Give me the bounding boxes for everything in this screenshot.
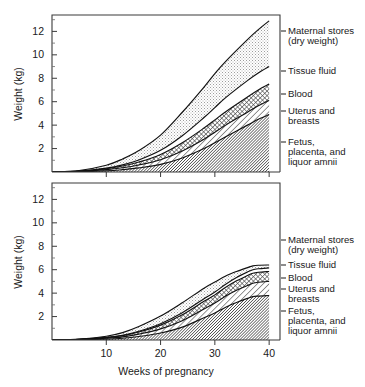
legend-label: breasts — [288, 293, 320, 304]
x-tick-label: 40 — [263, 347, 275, 359]
legend-label: liquor amnii — [288, 156, 337, 167]
x-tick-label: 30 — [209, 347, 221, 359]
x-axis-title: Weeks of pregnancy — [118, 365, 214, 377]
bottom-chart-y-axis-title: Weight (kg) — [12, 235, 24, 289]
y-tick-label: 10 — [32, 216, 44, 228]
legend-label: (dry weight) — [288, 35, 338, 46]
y-tick-label: 8 — [38, 240, 44, 252]
legend-label: Tissue fluid — [288, 259, 336, 270]
legend-label: Blood — [288, 272, 313, 283]
figure-container: 24681012 Weight (kg) Maternal stores(dry… — [0, 0, 365, 387]
y-tick-label: 10 — [32, 48, 44, 60]
legend-label: (dry weight) — [288, 244, 338, 255]
y-tick-label: 8 — [38, 72, 44, 84]
y-tick-label: 6 — [38, 263, 44, 275]
weight-gain-pregnancy-figure: 24681012 Weight (kg) Maternal stores(dry… — [0, 0, 365, 387]
legend-label: liquor amnii — [288, 325, 337, 336]
y-tick-label: 2 — [38, 142, 44, 154]
y-tick-label: 4 — [38, 119, 44, 131]
y-tick-label: 12 — [32, 25, 44, 37]
x-tick-label: 20 — [155, 347, 167, 359]
x-tick-label: 10 — [100, 347, 112, 359]
legend-label: Blood — [288, 88, 313, 99]
y-tick-label: 12 — [32, 193, 44, 205]
legend-label: breasts — [288, 115, 320, 126]
top-chart-y-axis-title: Weight (kg) — [12, 67, 24, 121]
y-tick-label: 2 — [38, 310, 44, 322]
legend-label: Tissue fluid — [288, 65, 336, 76]
y-tick-label: 4 — [38, 287, 44, 299]
y-tick-label: 6 — [38, 95, 44, 107]
